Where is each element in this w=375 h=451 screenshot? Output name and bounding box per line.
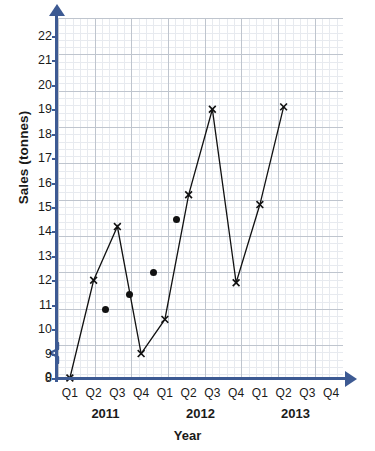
y-tick-mark [52,183,57,185]
series-layer [58,18,343,378]
y-axis-title: Sales (tonnes) [16,93,31,223]
y-tick-mark [52,85,57,87]
y-tick-label: 14 [26,225,52,237]
x-year-group-label: 2011 [76,406,136,421]
y-tick-mark [52,109,57,111]
plot-area [58,18,343,378]
y-tick-mark [52,305,57,307]
y-tick-mark [52,354,57,356]
y-tick-mark [52,280,57,282]
data-point-dot-marker [150,269,157,276]
x-axis-arrow-icon [345,371,357,387]
series-line [70,107,284,378]
x-tick-label: Q4 [317,386,345,400]
y-tick-label: 20 [26,79,52,91]
y-tick-label: 10 [26,323,52,335]
y-tick-mark [52,207,57,209]
x-axis-line [55,377,347,380]
y-tick-mark [52,329,57,331]
y-tick-label: 0 [26,371,52,383]
x-year-group-label: 2013 [266,406,326,421]
y-tick-label: 11 [26,299,52,311]
y-tick-mark [52,134,57,136]
y-tick-mark [52,378,57,380]
y-axis-ticks: 22212019181716151413121110980 [20,0,52,451]
y-tick-label: 13 [26,250,52,262]
y-tick-mark [52,60,57,62]
x-axis-title: Year [0,428,375,443]
y-tick-mark [52,256,57,258]
y-tick-mark [52,231,57,233]
y-tick-label: 9 [26,348,52,360]
y-tick-label: 22 [26,30,52,42]
y-tick-mark [52,36,57,38]
y-tick-label: 12 [26,274,52,286]
data-point-dot-marker [173,216,180,223]
y-tick-label: 21 [26,54,52,66]
y-tick-mark [52,158,57,160]
x-year-group-label: 2012 [171,406,231,421]
y-axis-line [55,14,58,382]
line-chart: 22212019181716151413121110980 Sales (ton… [0,0,375,451]
